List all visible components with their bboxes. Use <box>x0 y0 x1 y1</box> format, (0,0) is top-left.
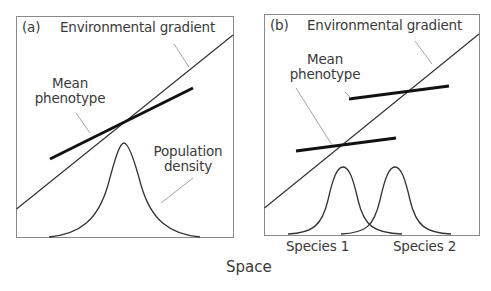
panel-a-environmental-gradient-label: Environmental gradient <box>60 20 215 35</box>
panel-a <box>17 17 234 238</box>
panel-b-mean-phenotype-line-species-2 <box>349 86 449 99</box>
panel-a-label: (a) <box>22 20 40 35</box>
panel-b-gradient-leader <box>415 41 432 64</box>
panel-a-mean-phenotype-label: Mean phenotype <box>30 76 110 106</box>
species-1-label: Species 1 <box>286 239 349 254</box>
panel-b-label: (b) <box>270 18 289 33</box>
panel-a-population-density-label: Population density <box>147 144 229 174</box>
panel-b-mean-phenotype-label: Mean phenotype <box>285 52 365 82</box>
panel-b-phenotype-leader-2 <box>345 92 351 98</box>
panel-b-mean-phenotype-line-species-1 <box>296 138 396 151</box>
panel-b-mean-phenotype-label-line2: phenotype <box>285 67 365 82</box>
panel-a-population-density-label-line2: density <box>147 159 229 174</box>
panel-a-phenotype-leader <box>76 113 90 133</box>
panel-a-mean-phenotype-label-line2: phenotype <box>30 91 110 106</box>
panel-b-mean-phenotype-label-line1: Mean <box>285 52 365 67</box>
panel-b <box>265 15 480 236</box>
panel-a-population-density-label-line1: Population <box>147 144 229 159</box>
panel-a-density-leader <box>161 178 193 203</box>
panel-b-frame <box>265 15 480 236</box>
panel-a-frame <box>17 17 234 238</box>
panel-b-environmental-gradient-label: Environmental gradient <box>307 18 462 33</box>
x-axis-label-space: Space <box>226 258 272 276</box>
panel-b-species-1-density-curve <box>288 167 402 234</box>
panel-a-mean-phenotype-label-line1: Mean <box>30 76 110 91</box>
panel-a-gradient-leader <box>174 44 189 67</box>
panel-b-phenotype-leader-1 <box>296 88 332 145</box>
species-2-label: Species 2 <box>393 239 456 254</box>
